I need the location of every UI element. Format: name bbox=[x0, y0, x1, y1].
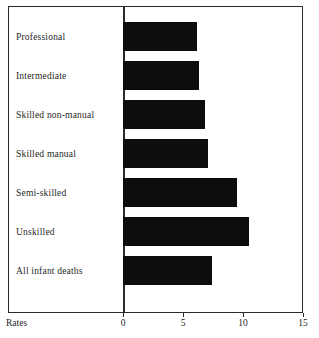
bar bbox=[123, 61, 199, 90]
x-tick bbox=[123, 313, 124, 317]
bar-row: Skilled manual bbox=[0, 139, 319, 168]
bar-row: Semi-skilled bbox=[0, 178, 319, 207]
category-label: All infant deaths bbox=[16, 266, 83, 276]
category-label: Professional bbox=[16, 32, 65, 42]
bar-row: Skilled non-manual bbox=[0, 100, 319, 129]
category-label: Unskilled bbox=[16, 227, 55, 237]
x-tick bbox=[303, 313, 304, 317]
bar bbox=[123, 217, 249, 246]
x-axis-title: Rates bbox=[6, 318, 27, 328]
bar-row: Intermediate bbox=[0, 61, 319, 90]
bar-chart: ProfessionalIntermediateSkilled non-manu… bbox=[0, 0, 319, 338]
bar bbox=[123, 139, 208, 168]
x-tick bbox=[183, 313, 184, 317]
category-label: Skilled non-manual bbox=[16, 110, 94, 120]
bar-row: Unskilled bbox=[0, 217, 319, 246]
bar bbox=[123, 100, 205, 129]
x-tick-label: 0 bbox=[121, 318, 126, 328]
category-label: Skilled manual bbox=[16, 149, 76, 159]
bar bbox=[123, 22, 197, 51]
x-tick bbox=[243, 313, 244, 317]
category-label: Semi-skilled bbox=[16, 188, 66, 198]
category-label: Intermediate bbox=[16, 71, 66, 81]
bar bbox=[123, 178, 237, 207]
bar-rows: ProfessionalIntermediateSkilled non-manu… bbox=[0, 6, 319, 313]
bar bbox=[123, 256, 212, 285]
x-tick-label: 10 bbox=[238, 318, 248, 328]
x-tick-label: 15 bbox=[298, 318, 308, 328]
bar-row: All infant deaths bbox=[0, 256, 319, 285]
x-tick-label: 5 bbox=[181, 318, 186, 328]
bar-row: Professional bbox=[0, 22, 319, 51]
